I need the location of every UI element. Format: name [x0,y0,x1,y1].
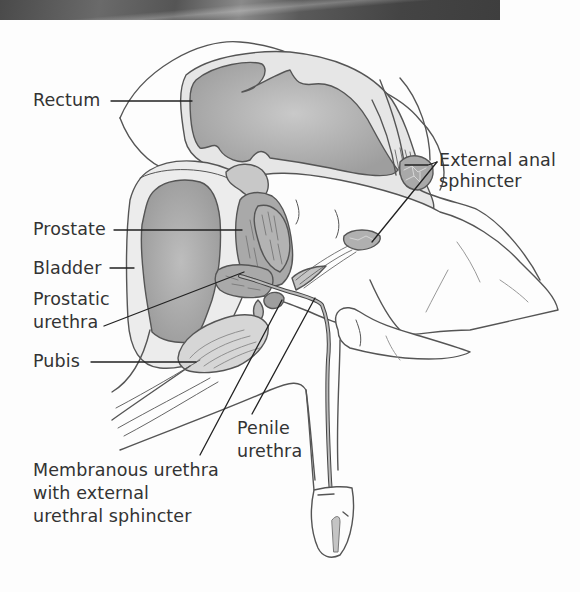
urethra-meatus [332,516,340,552]
prostate-lower [215,265,273,298]
label-external-anal-sphincter-line1: External anal [439,150,556,171]
label-prostate: Prostate [33,219,106,240]
label-penile-urethra-line2: urethra [237,441,302,462]
external-urethral-sphincter [264,292,284,308]
label-penile-urethra-line1: Penile [237,418,290,439]
penis-outline-left [306,390,314,490]
label-membranous-urethra-line1: Membranous urethra [33,460,219,481]
label-membranous-urethra-line2: with external [33,483,149,504]
corona-mark [318,494,334,495]
label-membranous-urethra-line3: urethral sphincter [33,506,191,527]
label-pubis: Pubis [33,351,80,372]
label-prostatic-urethra-line1: Prostatic [33,289,110,310]
label-external-anal-sphincter-line2: sphincter [439,171,522,192]
label-bladder: Bladder [33,258,101,279]
pubic-ligament [112,366,190,420]
penis-shaft [337,340,340,470]
label-rectum: Rectum [33,90,100,111]
label-prostatic-urethra-line2: urethra [33,312,98,333]
sacral-curve [120,118,168,170]
